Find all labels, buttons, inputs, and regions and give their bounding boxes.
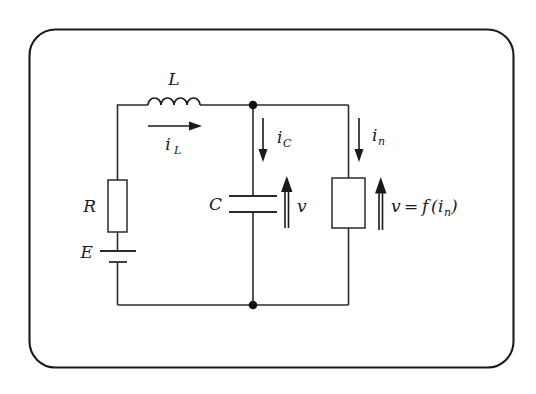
iL-label-sub: L [173,144,181,157]
v-nonlinear-arg-base: i [438,196,443,216]
source-label: E [80,242,94,262]
wire-top-left [118,105,149,180]
voltage-source-E: E [80,242,136,262]
nonlinear-element-body [332,178,365,228]
iC-label-base: i [277,127,282,147]
iC-arrow-head [259,149,268,162]
node-bottom-junction [249,301,258,310]
current-arrow-in: i n [355,118,386,162]
current-arrow-iC: i C [259,118,293,162]
voltage-arrow-v-capacitor: v [281,176,307,228]
v-nl-arrow-head [375,177,387,194]
inductor-label: L [167,69,179,89]
nonlinear-element [332,178,365,228]
resistor-R: R [82,180,127,232]
resistor-body [108,180,127,232]
circuit-diagram-svg: L i L R E C i C v [0,0,536,394]
v-nonlinear-paren-close: ) [450,196,458,216]
in-label-base: i [372,125,377,145]
wire-network [118,105,349,305]
iC-label-sub: C [283,137,292,150]
node-top-junction [249,101,258,110]
in-arrow-head [355,149,364,162]
capacitor-label: C [209,194,222,214]
inductor-coil-icon [148,98,200,105]
iL-arrow-head [189,122,202,131]
v-cap-arrow-head [281,176,293,192]
v-capacitor-label: v [297,196,307,216]
v-nonlinear-function: f [420,196,431,216]
voltage-arrow-v-nonlinear: v = f ( i n ) [375,177,458,230]
figure-canvas: L i L R E C i C v [0,0,536,394]
v-nonlinear-lhs: v [391,196,401,216]
capacitor-C: C [209,194,277,214]
resistor-label: R [82,196,96,216]
current-arrow-iL: i L [148,122,202,158]
v-nonlinear-paren-open: ( [431,196,438,216]
inductor-L: L [148,69,200,105]
in-label-sub: n [378,135,385,148]
v-nonlinear-equals: = [404,196,418,216]
iL-label-base: i [165,134,170,154]
